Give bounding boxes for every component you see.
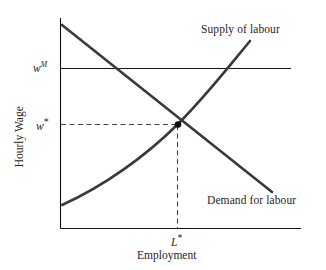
demand-for-labour-curve (62, 25, 272, 192)
x-axis-title: Employment (137, 250, 196, 262)
minimum-wage-symbol: w (33, 62, 41, 74)
equilibrium-wage-tick-label: w* (36, 117, 49, 132)
minimum-wage-superscript: M (41, 60, 47, 69)
equilibrium-employment-superscript: * (177, 232, 182, 243)
supply-of-labour-curve (62, 41, 250, 205)
minimum-wage-tick-label: wM (33, 61, 47, 74)
equilibrium-wage-superscript: * (44, 116, 49, 127)
supply-of-labour-label: Supply of labour (201, 24, 280, 36)
equilibrium-employment-tick-label: L* (171, 233, 182, 248)
labour-market-chart: Supply of labour Demand for labour wM w*… (0, 0, 326, 270)
demand-for-labour-label: Demand for labour (207, 195, 296, 207)
equilibrium-wage-symbol: w (36, 120, 44, 132)
y-axis-title: Hourly Wage (14, 92, 26, 182)
chart-canvas (0, 0, 326, 270)
equilibrium-point-marker (175, 121, 182, 128)
